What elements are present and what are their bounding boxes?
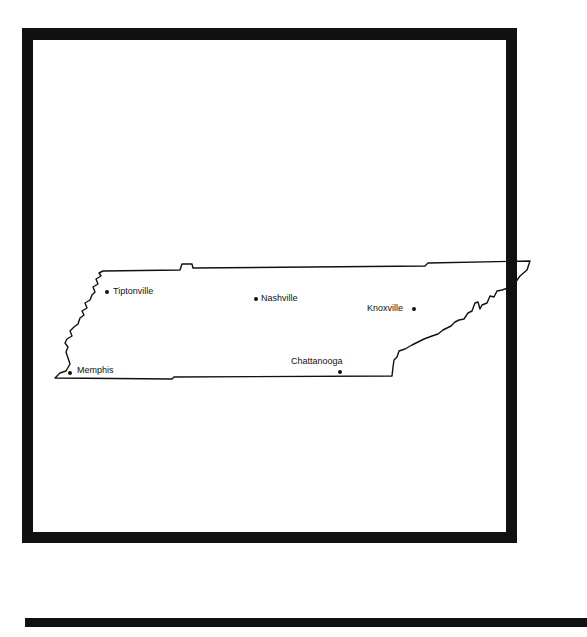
city-label-knoxville: Knoxville (367, 303, 403, 313)
city-label-memphis: Memphis (77, 365, 114, 375)
city-marker-nashville (254, 297, 258, 301)
city-marker-tiptonville (105, 290, 109, 294)
city-label-nashville: Nashville (261, 293, 298, 303)
city-marker-chattanooga (338, 370, 342, 374)
city-marker-memphis (68, 371, 72, 375)
city-label-chattanooga: Chattanooga (291, 356, 343, 366)
city-marker-knoxville (412, 307, 416, 311)
city-label-tiptonville: Tiptonville (113, 286, 153, 296)
tennessee-outline (0, 0, 587, 637)
